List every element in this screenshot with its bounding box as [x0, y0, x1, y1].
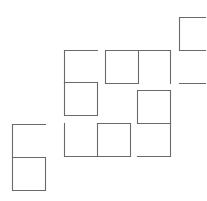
cell-c10 — [98, 124, 131, 157]
cell-c3 — [65, 51, 98, 84]
cell-c4 — [106, 51, 139, 84]
cell-c5 — [138, 51, 171, 84]
cell-c7 — [138, 91, 171, 124]
cell-c8 — [138, 124, 171, 157]
cell-c11 — [13, 125, 46, 158]
cell-c6 — [65, 83, 98, 116]
cell-c2 — [180, 51, 207, 84]
cell-c1 — [180, 18, 207, 51]
cell-c12 — [13, 158, 46, 191]
cell-c9 — [65, 124, 98, 157]
squares-diagram — [0, 0, 206, 201]
